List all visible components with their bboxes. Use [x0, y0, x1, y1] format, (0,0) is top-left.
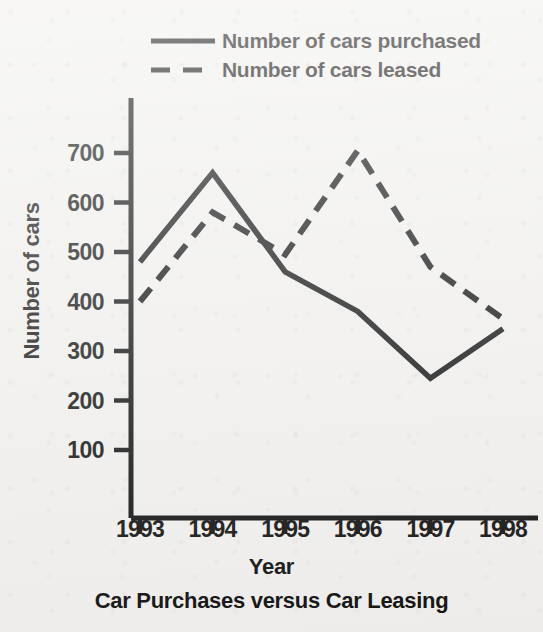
x-tick-label: 1994 — [173, 516, 253, 543]
legend-solid-line-icon — [150, 34, 216, 48]
y-tick-label: 200 — [40, 387, 104, 414]
x-tick-label: 1993 — [100, 516, 180, 543]
legend-dashed-line-icon — [150, 63, 216, 77]
x-axis-tick-labels: 199319941995199619971998 — [0, 516, 543, 548]
chart-legend: Number of cars purchased Number of cars … — [150, 26, 481, 84]
legend-label-purchased: Number of cars purchased — [222, 30, 481, 51]
chart-caption: Car Purchases versus Car Leasing — [0, 588, 543, 614]
legend-item-leased: Number of cars leased — [150, 55, 481, 84]
chart-figure: Number of cars purchased Number of cars … — [0, 0, 543, 632]
data-series-group — [140, 151, 503, 379]
legend-label-leased: Number of cars leased — [222, 59, 441, 80]
legend-item-purchased: Number of cars purchased — [150, 26, 481, 55]
y-tick-label: 600 — [40, 189, 104, 216]
y-axis-ticks — [114, 153, 131, 450]
y-tick-label: 300 — [40, 338, 104, 365]
y-tick-label: 400 — [40, 288, 104, 315]
axis-lines — [131, 98, 538, 518]
y-tick-label: 100 — [40, 437, 104, 464]
x-axis-title: Year — [0, 554, 543, 580]
y-axis-title: Number of cars — [19, 171, 45, 391]
x-tick-label: 1998 — [463, 516, 543, 543]
x-tick-label: 1995 — [245, 516, 325, 543]
x-tick-label: 1996 — [318, 516, 398, 543]
y-tick-label: 700 — [40, 140, 104, 167]
x-tick-label: 1997 — [390, 516, 470, 543]
y-tick-label: 500 — [40, 239, 104, 266]
